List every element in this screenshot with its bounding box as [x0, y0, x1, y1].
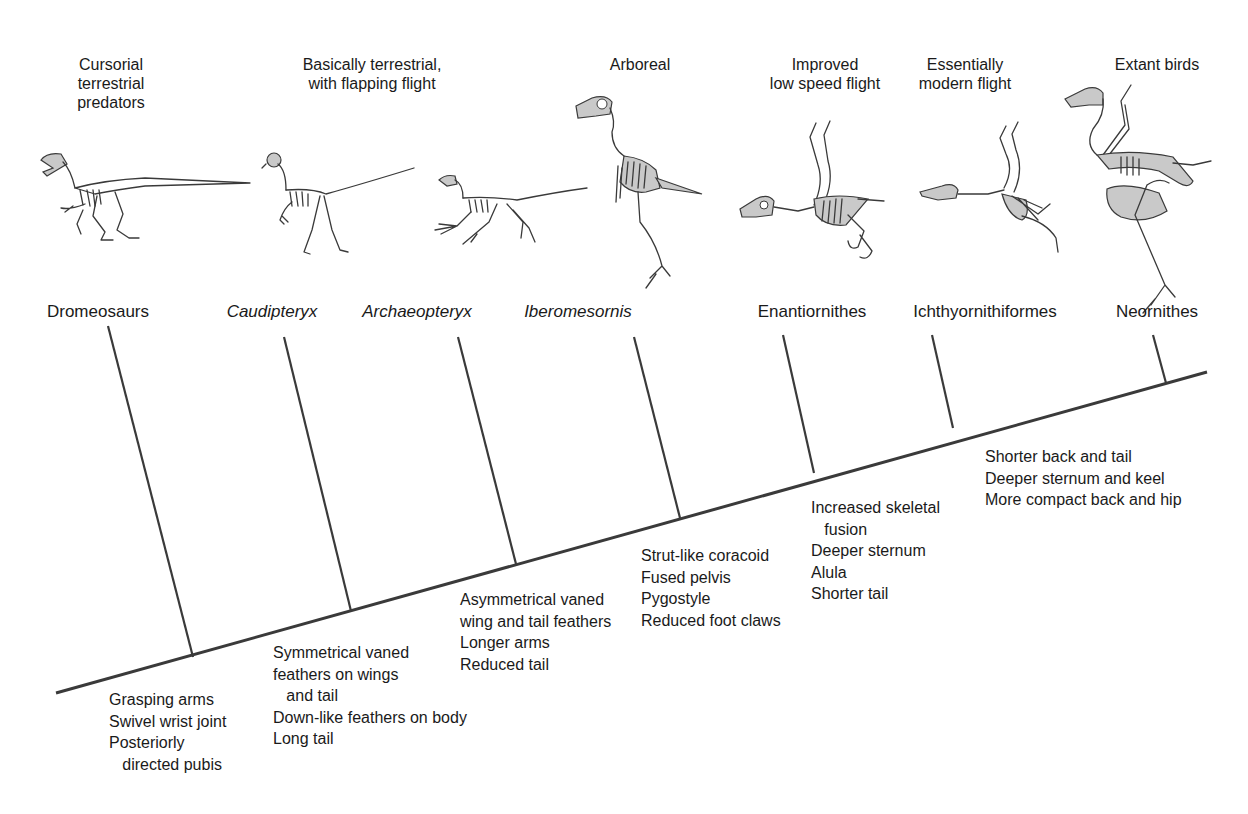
- habitat-label-caudipteryx-archaeopteryx: Basically terrestrial, with flapping fli…: [303, 55, 442, 93]
- traits-caudipteryx-node: Symmetrical vaned feathers on wings and …: [273, 642, 467, 750]
- traits-archaeopteryx-node: Asymmetrical vaned wing and tail feather…: [460, 589, 611, 675]
- habitat-label-neornithes: Extant birds: [1115, 55, 1199, 74]
- traits-ichthyornithiformes-node: Shorter back and tail Deeper sternum and…: [985, 446, 1182, 511]
- branch-neornithes: [1153, 335, 1166, 383]
- taxon-label-neornithes: Neornithes: [1116, 302, 1198, 322]
- branch-archaeopteryx: [458, 337, 516, 564]
- enantiornithes-skeleton-icon: [738, 115, 898, 275]
- traits-dromeosaur-node: Grasping arms Swivel wrist joint Posteri…: [109, 689, 226, 775]
- branch-iberomesornis: [634, 337, 680, 518]
- neornithes-skeleton-icon: [1063, 85, 1223, 325]
- habitat-label-enantiornithes: Improved low speed flight: [770, 55, 880, 93]
- habitat-label-ichthyornithiformes: Essentially modern flight: [919, 55, 1012, 93]
- taxon-label-enantiornithes: Enantiornithes: [758, 302, 867, 322]
- branch-ichthyornithiformes: [932, 335, 953, 428]
- taxon-label-caudipteryx: Caudipteryx: [227, 302, 318, 322]
- iberomesornis-skeleton-icon: [572, 92, 722, 292]
- taxon-label-ichthyornithiformes: Ichthyornithiformes: [913, 302, 1057, 322]
- traits-enantiornithes-node: Increased skeletal fusion Deeper sternum…: [811, 497, 940, 605]
- habitat-label-iberomesornis: Arboreal: [610, 55, 670, 74]
- caudipteryx-skeleton-icon: [262, 150, 422, 260]
- branch-caudipteryx: [284, 337, 351, 611]
- main-trunk-line: [56, 372, 1207, 693]
- branch-enantiornithes: [783, 335, 814, 473]
- dromeosaur-skeleton-icon: [35, 150, 255, 245]
- taxon-label-iberomesornis: Iberomesornis: [524, 302, 632, 322]
- taxon-label-archaeopteryx: Archaeopteryx: [362, 302, 472, 322]
- habitat-label-dromeosaurs: Cursorial terrestrial predators: [77, 55, 145, 112]
- taxon-label-dromeosaurs: Dromeosaurs: [47, 302, 149, 322]
- archaeopteryx-skeleton-icon: [417, 150, 597, 245]
- traits-iberomesornis-node: Strut-like coracoid Fused pelvis Pygosty…: [641, 545, 781, 631]
- ichthyornithiformes-skeleton-icon: [918, 120, 1078, 260]
- branch-dromeosaurs: [108, 326, 193, 657]
